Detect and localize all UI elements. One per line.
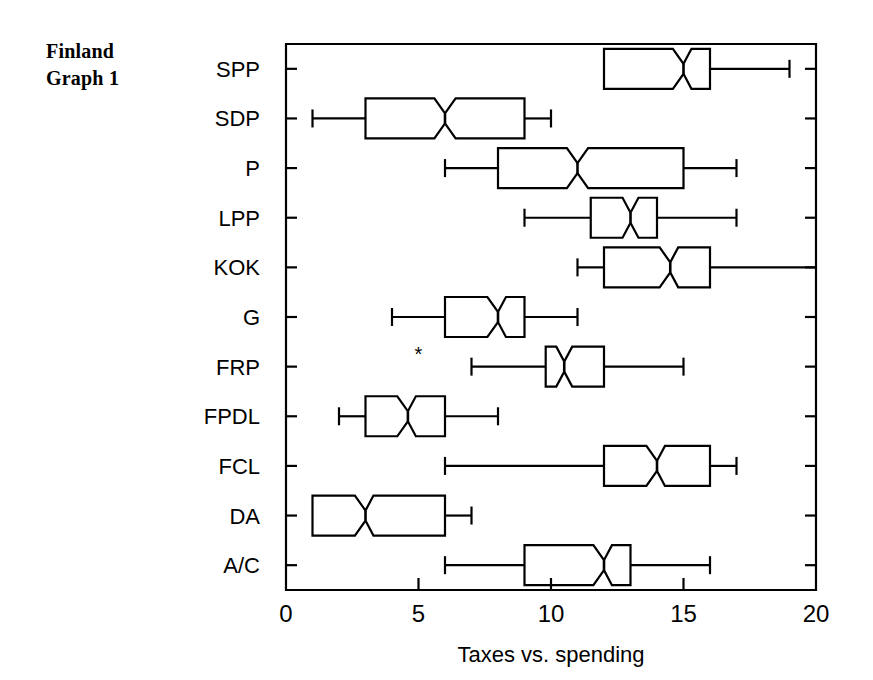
x-tick-label: 5 (412, 600, 425, 627)
category-label: FPDL (204, 404, 260, 429)
outlier-marker: * (415, 343, 423, 365)
category-label: P (245, 156, 260, 181)
x-tick-label: 10 (538, 600, 565, 627)
box-plot-item: * (415, 343, 684, 387)
category-label: DA (229, 504, 260, 529)
box-plot-item (525, 198, 737, 238)
box-plot-item (445, 148, 737, 188)
box-body (604, 247, 710, 287)
box-body (604, 49, 710, 89)
category-label: FRP (216, 355, 260, 380)
box-body (445, 297, 525, 337)
box-body (366, 396, 446, 436)
x-tick-label: 20 (803, 600, 830, 627)
category-label: FCL (218, 454, 260, 479)
category-label: LPP (218, 206, 260, 231)
box-body (525, 545, 631, 585)
figure-corner-title: Finland Graph 1 (46, 38, 119, 92)
x-tick-label: 15 (670, 600, 697, 627)
category-label: G (243, 305, 260, 330)
box-body (546, 347, 604, 387)
box-plot-chart: SPPSDPPLPPKOKGFRPFPDLFCLDAA/C * 05101520… (0, 0, 873, 680)
box-plot-item (604, 49, 790, 89)
category-label: A/C (223, 553, 260, 578)
box-body (313, 496, 446, 536)
box-series: * (313, 49, 817, 585)
box-plot-item (578, 247, 817, 287)
box-plot-item (392, 297, 578, 337)
category-label: KOK (214, 255, 261, 280)
box-plot-item (339, 396, 498, 436)
category-label: SDP (215, 106, 260, 131)
box-plot-item (313, 496, 472, 536)
category-label: SPP (216, 57, 260, 82)
x-tick-label: 0 (279, 600, 292, 627)
box-body (498, 148, 684, 188)
box-plot-item (313, 98, 552, 138)
box-body (591, 198, 657, 238)
box-plot-item (445, 545, 710, 585)
figure-canvas: Finland Graph 1 SPPSDPPLPPKOKGFRPFPDLFCL… (0, 0, 873, 680)
x-axis-title: Taxes vs. spending (457, 642, 644, 667)
box-plot-item (445, 446, 737, 486)
